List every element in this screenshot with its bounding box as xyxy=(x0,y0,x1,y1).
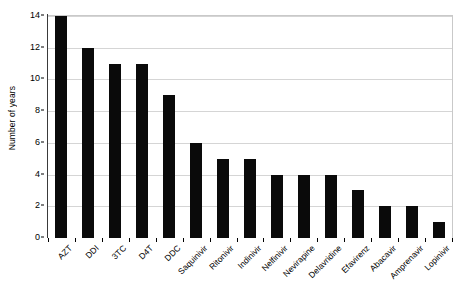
x-axis-tick-mark xyxy=(425,238,426,242)
x-axis-tick-mark xyxy=(75,238,76,242)
y-axis-tick-mark xyxy=(41,46,44,47)
bar-slot xyxy=(129,16,156,238)
x-axis-category-label: 3TC xyxy=(110,243,128,261)
x-axis-category-label: Lopinivir xyxy=(422,243,451,272)
bar-slot xyxy=(183,16,210,238)
x-axis-category-label: DDI xyxy=(84,243,101,260)
bar-slot xyxy=(398,16,425,238)
x-axis-tick-mark xyxy=(129,238,130,242)
x-axis-tick-mark xyxy=(210,238,211,242)
x-axis-category-label-text: AZT xyxy=(56,243,74,261)
y-axis-tick-label: 2 xyxy=(35,200,40,210)
x-axis-category-label-text: Efavirenz xyxy=(339,243,371,275)
x-axis-category-label: D4T xyxy=(137,243,155,261)
bar xyxy=(271,175,283,238)
y-axis-tick-label: 4 xyxy=(35,169,40,179)
x-axis-category-label-text: Ritonivir xyxy=(207,243,236,272)
bar-slot xyxy=(425,16,452,238)
y-axis-tick-mark xyxy=(41,205,44,206)
y-axis-tick-mark xyxy=(41,141,44,142)
y-axis-tick-mark xyxy=(41,78,44,79)
bar xyxy=(163,95,175,238)
bar xyxy=(55,16,67,238)
bar xyxy=(217,159,229,238)
x-axis-tick-marks xyxy=(48,238,452,242)
y-axis-tick-label: 10 xyxy=(30,73,40,83)
bar-chart: Number of years 02468101214 AZTDDI3TCD4T… xyxy=(0,0,454,308)
x-axis-tick-mark xyxy=(452,238,453,242)
x-axis-tick-mark xyxy=(183,238,184,242)
x-axis-category-label: AZT xyxy=(56,243,74,261)
bar xyxy=(244,159,256,238)
y-axis-tick-mark xyxy=(41,237,44,238)
bar xyxy=(82,48,94,238)
x-axis-tick-mark xyxy=(344,238,345,242)
x-axis-category-label-text: 3TC xyxy=(110,243,128,261)
bar-slot xyxy=(102,16,129,238)
x-axis-category-label: Ritonivir xyxy=(207,243,236,272)
x-axis-category-labels: AZTDDI3TCD4TDDCSaquinivirRitonivirIndini… xyxy=(48,243,452,307)
x-axis-tick-mark xyxy=(317,238,318,242)
x-axis-category-label-text: DDC xyxy=(163,243,183,263)
y-axis-tick-label: 0 xyxy=(35,232,40,242)
bar-slot xyxy=(48,16,75,238)
x-axis-category-label-text: Lopinivir xyxy=(422,243,451,272)
bar xyxy=(190,143,202,238)
x-axis-category-label: Efavirenz xyxy=(339,243,371,275)
y-axis-tick-label: 8 xyxy=(35,105,40,115)
bar xyxy=(406,206,418,238)
x-axis-tick-mark xyxy=(290,238,291,242)
x-axis-tick-mark xyxy=(263,238,264,242)
x-axis-category-label-text: DDI xyxy=(84,243,101,260)
x-axis-tick-mark xyxy=(156,238,157,242)
y-axis-tick-mark xyxy=(41,15,44,16)
bar xyxy=(352,190,364,238)
x-axis-tick-mark xyxy=(48,238,49,242)
x-axis-tick-mark xyxy=(398,238,399,242)
x-axis-tick-mark xyxy=(237,238,238,242)
y-axis-tick-labels: 02468101214 xyxy=(20,10,44,237)
bar-slot xyxy=(344,16,371,238)
y-axis-tick-label: 12 xyxy=(30,42,40,52)
bar-slot xyxy=(75,16,102,238)
bar-slot xyxy=(317,16,344,238)
y-axis-tick-label: 6 xyxy=(35,137,40,147)
y-axis-tick-mark xyxy=(41,110,44,111)
y-axis-tick-mark xyxy=(41,173,44,174)
bar-slot xyxy=(290,16,317,238)
x-axis-tick-mark xyxy=(371,238,372,242)
plot-area xyxy=(48,15,453,238)
x-axis-tick-mark xyxy=(102,238,103,242)
bar xyxy=(109,64,121,238)
bar-slot xyxy=(156,16,183,238)
bar-slot xyxy=(264,16,291,238)
y-axis-title: Number of years xyxy=(2,0,22,237)
bar-slot xyxy=(237,16,264,238)
bar-slot xyxy=(210,16,237,238)
bar xyxy=(136,64,148,238)
bar xyxy=(325,175,337,238)
y-axis-tick-label: 14 xyxy=(30,10,40,20)
bar-slot xyxy=(371,16,398,238)
bar xyxy=(379,206,391,238)
x-axis-category-label-text: D4T xyxy=(137,243,155,261)
x-axis-category-label: DDC xyxy=(163,243,183,263)
bar xyxy=(433,222,445,238)
bar xyxy=(298,175,310,238)
bar-series xyxy=(48,16,452,238)
y-axis-title-text: Number of years xyxy=(7,86,17,150)
